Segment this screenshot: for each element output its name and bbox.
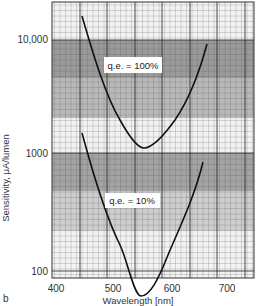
x-tick-500: 500 <box>105 283 122 294</box>
x-axis-label: Wavelength [nm] <box>103 295 174 306</box>
y-tick-1000: 1000 <box>26 148 49 159</box>
annotation-qe-10: q.e. = 10% <box>105 193 160 208</box>
x-tick-600: 600 <box>164 283 181 294</box>
plot-area <box>52 2 254 278</box>
y-axis-label: Sensitivity, μA/lumen <box>0 134 11 222</box>
panel-label: b <box>3 293 9 304</box>
x-axis-ticks: 400 500 600 700 <box>48 283 236 294</box>
y-axis-ticks: 10,000 1000 100 <box>17 34 48 277</box>
y-tick-10000: 10,000 <box>17 34 48 45</box>
annotation-qe-100: q.e. = 100% <box>104 57 162 73</box>
sensitivity-chart: q.e. = 100% q.e. = 10% 10,000 1000 100 4… <box>0 0 261 306</box>
x-tick-400: 400 <box>48 283 65 294</box>
svg-text:q.e. = 100%: q.e. = 100% <box>108 60 160 71</box>
x-tick-700: 700 <box>219 283 236 294</box>
svg-text:q.e. = 10%: q.e. = 10% <box>109 195 155 206</box>
y-tick-100: 100 <box>31 266 48 277</box>
